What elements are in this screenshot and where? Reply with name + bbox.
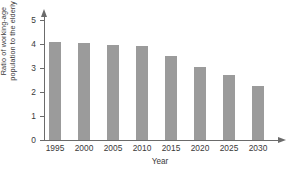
bar [107, 45, 119, 140]
y-axis-tick-label: 1 [6, 112, 36, 120]
y-axis-tick [40, 140, 45, 141]
bar [252, 86, 264, 140]
bar-chart-figure: Ratio of working-age population to the e… [0, 0, 299, 174]
y-axis-tick-label: 3 [6, 64, 36, 72]
bar [136, 46, 148, 140]
y-axis-tick-label: 4 [6, 40, 36, 48]
x-axis-title: Year [44, 157, 276, 167]
x-axis-tick-label: 2030 [241, 143, 275, 153]
x-axis-line [44, 140, 279, 141]
bar [165, 56, 177, 140]
bar [49, 42, 61, 140]
y-axis-tick-label: 0 [6, 136, 36, 144]
x-axis-arrow-icon [278, 137, 286, 143]
y-axis-tick-label: 5 [6, 16, 36, 24]
bar [78, 43, 90, 140]
bar [194, 67, 206, 140]
y-axis-tick-label: 2 [6, 88, 36, 96]
bar [223, 75, 235, 140]
plot-area [44, 14, 276, 140]
